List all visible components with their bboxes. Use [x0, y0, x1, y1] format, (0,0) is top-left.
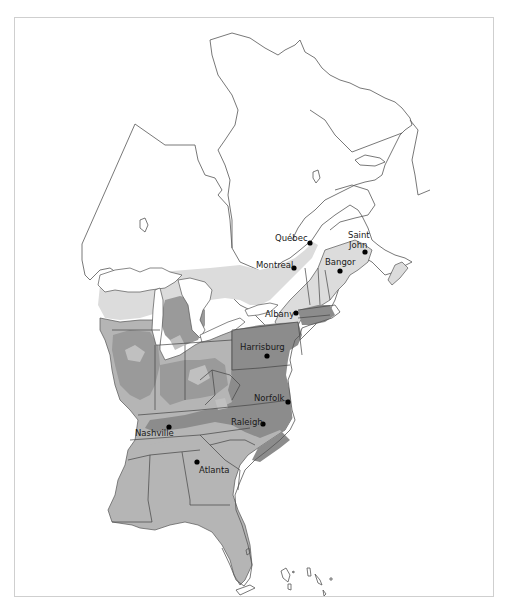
city-label-raleigh: Raleigh — [231, 417, 263, 427]
city-label-norfolk: Norfolk — [254, 393, 285, 403]
city-dot-icon — [194, 459, 199, 464]
city-montreal[interactable]: Montreal — [256, 260, 297, 271]
caribbean-islands — [246, 548, 332, 596]
city-label-nashville: Nashville — [135, 428, 174, 438]
city-label-harrisburg: Harrisburg — [240, 342, 285, 352]
city-dot-icon — [337, 268, 342, 273]
city-label-bangor: Bangor — [325, 257, 356, 267]
city-label-montreal: Montreal — [256, 260, 293, 270]
city-albany[interactable]: Albany — [265, 309, 299, 319]
city-raleigh[interactable]: Raleigh — [231, 417, 266, 427]
map-canvas[interactable]: Québec Montreal Saint John Bangor Albany… — [0, 0, 508, 615]
city-dot-icon — [285, 399, 290, 404]
city-label-saint: Saint — [348, 230, 370, 240]
city-dot-icon — [264, 353, 269, 358]
city-dot-icon — [307, 240, 312, 245]
city-label-quebec: Québec — [275, 233, 308, 243]
city-label-atlanta: Atlanta — [199, 465, 230, 475]
city-label-john: John — [348, 240, 367, 250]
city-label-albany: Albany — [265, 309, 294, 319]
city-dot-icon — [362, 249, 367, 254]
